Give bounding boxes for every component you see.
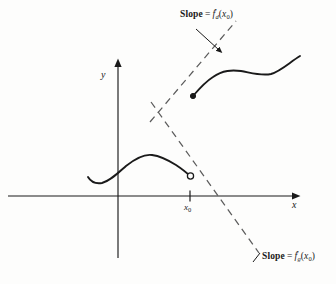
left-derivative-arg-close: ) (312, 251, 315, 261)
figure-canvas: y x x0 Slope=f′d(x0) Slope=f′g(x0) (0, 0, 336, 284)
filled-dot-endpoint (190, 93, 195, 98)
right-derivative-annotation: Slope=f′d(x0) (180, 9, 233, 21)
curve-left-branch (88, 155, 190, 183)
x0-tick-label: x0 (184, 203, 191, 213)
left-derivative-keyword: Slope (262, 251, 285, 261)
left-derivative-annotation: Slope=f′g(x0) (262, 251, 315, 263)
x-axis-label: x (292, 200, 296, 210)
figure-graphics (0, 0, 336, 284)
y-axis-label: y (101, 70, 105, 80)
leader-line-right-derivative (196, 29, 219, 50)
open-circle-endpoint (187, 173, 193, 179)
tangent-line-left-derivative (151, 102, 259, 253)
right-derivative-arg-close: ) (230, 9, 233, 19)
x0-tick-label-subscript: 0 (188, 206, 191, 213)
curve-right-branch (193, 56, 300, 96)
right-derivative-keyword: Slope (180, 9, 203, 19)
leader-line-left-derivative (253, 253, 260, 262)
